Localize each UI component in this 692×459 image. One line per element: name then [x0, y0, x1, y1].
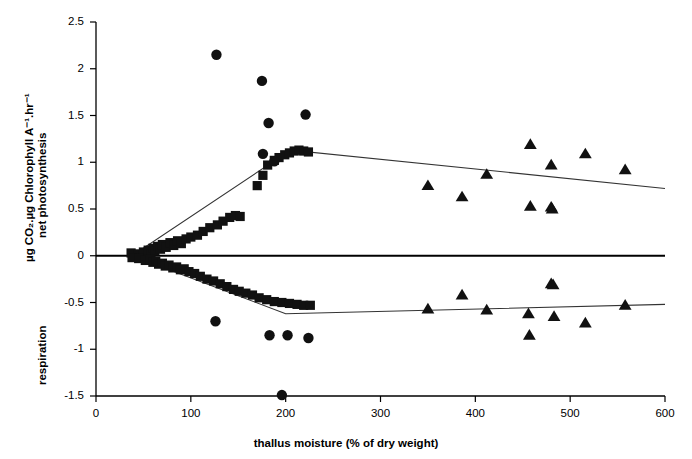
data-point-triangle	[422, 179, 435, 190]
data-point-square	[306, 301, 315, 310]
data-point-circle	[263, 118, 273, 128]
x-axis-title: thallus moisture (% of dry weight)	[254, 437, 439, 450]
data-point-square	[253, 181, 262, 190]
x-axis-tick-label: 600	[655, 408, 674, 420]
data-point-triangle	[456, 289, 469, 300]
data-point-triangle	[422, 303, 435, 314]
series-square	[127, 253, 314, 310]
data-point-triangle	[456, 191, 469, 202]
plot-area	[0, 0, 692, 459]
y-axis-title-units: µg CO₂.µg Chlorophyll A⁻¹.hr⁻¹	[22, 93, 36, 262]
data-point-triangle	[619, 299, 632, 310]
x-axis-tick-label: 200	[276, 408, 295, 420]
series-square	[126, 146, 313, 259]
x-axis-tick-label: 400	[466, 408, 485, 420]
data-point-triangle	[579, 317, 592, 328]
data-point-triangle	[619, 164, 632, 175]
data-point-circle	[211, 50, 221, 60]
data-point-triangle	[523, 329, 536, 340]
data-point-circle	[210, 316, 220, 326]
y-axis-tick-label: 2	[50, 63, 84, 75]
y-axis-title-respiration: respiration	[36, 326, 48, 385]
data-point-circle	[277, 390, 287, 400]
data-point-circle	[258, 149, 268, 159]
y-axis-tick-label: -1	[50, 344, 84, 356]
data-point-square	[236, 212, 245, 221]
y-axis-tick-label: 1	[50, 157, 84, 169]
x-axis-tick-label: 300	[371, 408, 390, 420]
data-point-square	[258, 171, 267, 180]
series-circle	[210, 316, 313, 400]
x-axis-tick-label: 500	[561, 408, 580, 420]
data-point-triangle	[579, 148, 592, 159]
data-markers	[126, 50, 631, 401]
x-axis-tick-label: 100	[181, 408, 200, 420]
data-point-triangle	[548, 310, 561, 321]
series-triangle	[422, 138, 632, 213]
data-point-circle	[257, 76, 267, 86]
data-point-triangle	[524, 200, 537, 211]
y-axis-tick-label: -1.5	[50, 390, 84, 402]
y-axis-tick-label: 1.5	[50, 110, 84, 122]
y-axis-tick-label: 2.5	[50, 16, 84, 28]
data-point-circle	[282, 330, 292, 340]
axes	[90, 22, 665, 402]
data-point-triangle	[522, 308, 535, 319]
data-point-triangle	[545, 159, 558, 170]
chart-figure: -1.5-1-0.500.511.522.5 01002003004005006…	[0, 0, 692, 459]
upper-trend-line	[132, 150, 665, 256]
y-axis-tick-label: -0.5	[50, 297, 84, 309]
y-axis-title-net-photosynthesis: net photosynthesis	[36, 133, 48, 238]
series-triangle	[422, 278, 632, 340]
data-point-circle	[300, 109, 310, 119]
y-axis-tick-label: 0	[50, 250, 84, 262]
x-axis-tick-label: 0	[93, 408, 99, 420]
data-point-circle	[264, 330, 274, 340]
data-point-triangle	[524, 138, 537, 149]
data-point-circle	[269, 156, 279, 166]
data-point-circle	[303, 333, 313, 343]
y-axis-tick-label: 0.5	[50, 203, 84, 215]
data-point-square	[304, 147, 313, 156]
